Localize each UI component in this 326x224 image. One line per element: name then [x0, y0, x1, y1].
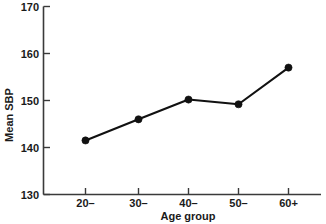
y-tick-label-170: 170 [21, 1, 39, 13]
y-tick-label-160: 160 [21, 48, 39, 60]
chart-background [0, 0, 326, 224]
y-tick-label-150: 150 [21, 95, 39, 107]
x-tick-label-40: 40– [179, 197, 197, 209]
data-point [82, 137, 89, 144]
x-tick-label-20: 20– [76, 197, 94, 209]
y-axis-title: Mean SBP [3, 88, 15, 142]
x-tick-label-50: 50– [229, 197, 247, 209]
chart-container: 170 160 150 140 130 20– 30– 40– 50– 60+ … [0, 0, 326, 224]
x-tick-label-30: 30– [129, 197, 147, 209]
x-tick-label-60: 60+ [279, 197, 298, 209]
data-point [135, 116, 142, 123]
data-point [185, 96, 192, 103]
y-tick-label-130: 130 [21, 189, 39, 201]
data-point [235, 101, 242, 108]
data-point [285, 64, 292, 71]
line-chart: 170 160 150 140 130 20– 30– 40– 50– 60+ … [0, 0, 326, 224]
x-axis-title: Age group [161, 210, 216, 222]
y-tick-label-140: 140 [21, 142, 39, 154]
